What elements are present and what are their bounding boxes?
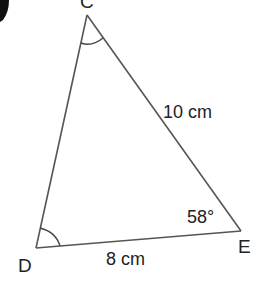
- vertex-label-e: E: [238, 236, 251, 257]
- angle-label-e: 58°: [187, 207, 214, 227]
- vertex-label-d: D: [18, 255, 32, 276]
- side-de: [36, 231, 241, 248]
- angle-arc-c: [81, 38, 103, 44]
- cropped-question-mark: [0, 0, 9, 22]
- angle-arc-d: [40, 228, 60, 246]
- side-label-de: 8 cm: [106, 249, 145, 269]
- triangle-diagram: C D E 10 cm 8 cm 58°: [0, 0, 256, 298]
- side-label-ce: 10 cm: [163, 102, 212, 122]
- side-ce: [87, 15, 241, 231]
- side-cd: [36, 15, 87, 248]
- vertex-label-c: C: [80, 0, 94, 12]
